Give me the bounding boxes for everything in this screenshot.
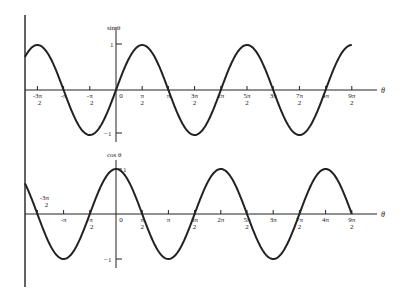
sin-graph: -3π2-π-π20π2π3π22π5π23π7π24π9π2 sin θ 1 … xyxy=(25,24,385,142)
x-tick-label-denominator: 2 xyxy=(245,99,249,107)
sin-x-ticks: -3π2-π-π20π2π3π22π5π23π7π24π9π2 xyxy=(33,86,356,107)
cos-graph: -3π2-π-π20π2π3π22π5π23π7π24π9π2 cos θ 1 … xyxy=(25,151,385,268)
sin-one-label: 1 xyxy=(110,41,114,49)
x-tick-label-denominator: 2 xyxy=(140,99,144,107)
cos-one-label: 1 xyxy=(123,166,127,174)
x-tick-label-denominator: 2 xyxy=(245,223,249,231)
cos-axis-label: cos θ xyxy=(107,151,122,159)
x-tick-label-denominator: 2 xyxy=(298,99,302,107)
x-tick-label-denominator: 2 xyxy=(193,223,197,231)
x-tick-label: 2π xyxy=(217,216,225,224)
trig-graphs-figure: -3π2-π-π20π2π3π22π5π23π7π24π9π2 sin θ 1 … xyxy=(0,0,405,299)
x-tick-label-denominator: 2 xyxy=(350,223,354,231)
x-tick-label-denominator: 2 xyxy=(38,99,42,107)
cos-theta-label: θ xyxy=(381,210,385,219)
x-tick-label-denominator: 2 xyxy=(90,99,94,107)
x-tick-label: 0 xyxy=(119,92,123,100)
sin-cos-plot: -3π2-π-π20π2π3π22π5π23π7π24π9π2 sin θ 1 … xyxy=(0,0,405,299)
x-tick-label-denominator: 2 xyxy=(350,99,354,107)
cos-neg-one-label: −1 xyxy=(104,256,112,264)
sin-neg-one-label: −1 xyxy=(104,130,112,138)
sin-axis-label: sin θ xyxy=(107,24,121,32)
x-tick-label-denominator: 2 xyxy=(45,201,49,209)
x-tick-label: 4π xyxy=(322,216,330,224)
sin-theta-label: θ xyxy=(381,86,385,95)
x-tick-label: 3π xyxy=(270,216,278,224)
x-tick-label: π xyxy=(167,216,171,224)
x-tick-label: -π xyxy=(61,216,67,224)
x-tick-label-denominator: 2 xyxy=(140,223,144,231)
x-tick-label-denominator: 2 xyxy=(298,223,302,231)
x-tick-label-denominator: 2 xyxy=(193,99,197,107)
x-tick-label: 0 xyxy=(119,216,123,224)
x-tick-label-denominator: 2 xyxy=(90,223,94,231)
